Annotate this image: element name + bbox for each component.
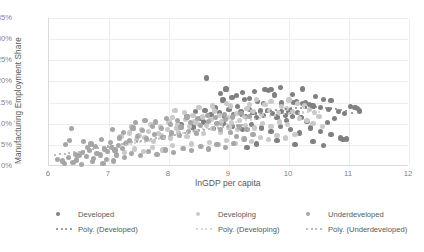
- data-point-underdeveloped: [168, 122, 173, 127]
- data-point-underdeveloped: [84, 154, 89, 159]
- legend-label-developed[interactable]: Developed: [78, 210, 114, 219]
- data-point-developed: [204, 75, 209, 80]
- y-tick-label: 30%: [0, 34, 12, 43]
- trendline-dot: [274, 114, 276, 116]
- data-point-underdeveloped: [178, 124, 183, 129]
- trendline-dot: [174, 134, 176, 136]
- data-point-developing: [266, 137, 271, 142]
- trendline-dot: [227, 125, 229, 127]
- legend-label-poly-developing[interactable]: Poly. (Developing): [218, 225, 279, 234]
- trendline-dot: [54, 154, 56, 156]
- trendline-dot: [179, 133, 181, 135]
- trendline-dot: [64, 153, 66, 155]
- data-point-developed: [240, 90, 245, 95]
- y-tick-label: 35%: [0, 13, 12, 22]
- data-point-developed: [310, 139, 315, 144]
- legend-label-underdeveloped[interactable]: Underdeveloped: [328, 210, 384, 219]
- data-point-developed: [272, 92, 277, 97]
- data-point-developing: [320, 124, 325, 129]
- trendline-dot: [112, 145, 114, 147]
- legend-marker: [56, 212, 60, 216]
- horizontal-gridline: [49, 60, 408, 61]
- data-point-developing: [297, 116, 302, 121]
- data-point-underdeveloped: [206, 146, 211, 151]
- chart-legend: DevelopedDevelopingUnderdevelopedPoly. (…: [0, 202, 424, 236]
- trendline-dot: [140, 140, 142, 142]
- data-point-developing: [252, 125, 257, 130]
- x-tick-label: 6: [33, 169, 63, 178]
- data-point-developed: [308, 125, 313, 130]
- x-tick-label: 10: [273, 169, 303, 178]
- data-point-developing: [268, 124, 273, 129]
- data-point-underdeveloped: [244, 127, 249, 132]
- data-point-underdeveloped: [181, 146, 186, 151]
- data-point-underdeveloped: [62, 161, 67, 166]
- data-point-underdeveloped: [175, 118, 180, 123]
- trendline-dot: [125, 144, 127, 146]
- y-axis-title: Manufacturing Employment Share: [14, 21, 23, 181]
- trendline-dot: [240, 120, 242, 122]
- legend-label-poly-underdeveloped[interactable]: Poly. (Underdeveloped): [328, 225, 407, 234]
- data-point-underdeveloped: [99, 137, 104, 142]
- data-point-developing: [260, 121, 265, 126]
- data-point-developed: [223, 86, 228, 91]
- trendline-dot: [255, 112, 257, 114]
- data-point-underdeveloped: [129, 151, 134, 156]
- data-point-underdeveloped: [184, 114, 189, 119]
- data-point-developed: [290, 114, 295, 119]
- trendline-dot: [305, 106, 307, 108]
- legend-marker: [196, 212, 200, 216]
- data-point-underdeveloped: [100, 161, 105, 166]
- data-point-developing: [304, 118, 309, 123]
- horizontal-gridline: [49, 81, 408, 82]
- data-point-underdeveloped: [223, 145, 228, 150]
- trendline-dot: [307, 111, 309, 113]
- trendline-dot: [330, 107, 332, 109]
- data-point-underdeveloped: [138, 153, 143, 158]
- vertical-gridline: [409, 18, 410, 165]
- data-point-developing: [170, 143, 175, 148]
- trendline-dot: [302, 111, 304, 113]
- data-point-underdeveloped: [70, 160, 75, 165]
- data-point-developed: [244, 145, 249, 150]
- data-point-underdeveloped: [121, 130, 126, 135]
- trendline-dot: [288, 112, 290, 114]
- legend-label-poly-developed[interactable]: Poly. (Developed): [78, 225, 138, 234]
- data-point-underdeveloped: [206, 119, 211, 124]
- data-point-developing: [210, 103, 215, 108]
- data-point-developing: [247, 102, 252, 107]
- data-point-underdeveloped: [66, 155, 71, 160]
- legend-dotted-line: [56, 228, 72, 230]
- data-point-developed: [318, 129, 323, 134]
- data-point-developing: [258, 135, 263, 140]
- data-point-developed: [259, 125, 264, 130]
- data-point-developing: [254, 97, 259, 102]
- data-point-underdeveloped: [142, 118, 147, 123]
- trendline-dot: [351, 112, 353, 114]
- data-point-developing: [274, 133, 279, 138]
- data-point-developing: [189, 141, 194, 146]
- data-point-underdeveloped: [228, 130, 233, 135]
- trendline-dot: [320, 107, 322, 109]
- data-point-developing: [277, 119, 282, 124]
- figure-caption: [0, 243, 424, 252]
- data-point-developed: [344, 136, 349, 141]
- data-point-developing: [127, 130, 132, 135]
- data-point-underdeveloped: [242, 136, 247, 141]
- data-point-underdeveloped: [194, 131, 199, 136]
- horizontal-gridline: [49, 18, 408, 19]
- data-point-developed: [321, 143, 326, 148]
- data-point-underdeveloped: [98, 152, 103, 157]
- data-point-underdeveloped: [230, 114, 235, 119]
- trendline-dot: [155, 137, 157, 139]
- data-point-developing: [292, 132, 297, 137]
- x-axis-title: lnGDP per capita: [48, 178, 408, 188]
- trendline-dot: [130, 143, 132, 145]
- data-point-developed: [292, 142, 297, 147]
- legend-label-developing[interactable]: Developing: [218, 210, 256, 219]
- trendline-dot: [264, 116, 266, 118]
- data-point-developing: [268, 99, 273, 104]
- data-point-underdeveloped: [81, 139, 86, 144]
- data-point-developing: [283, 135, 288, 140]
- data-point-developed: [328, 132, 333, 137]
